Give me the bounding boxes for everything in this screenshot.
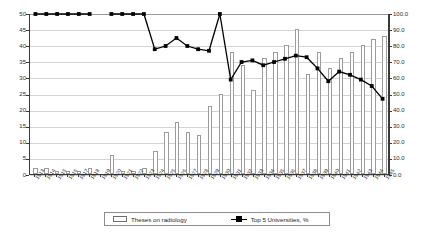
y-tickmark-right <box>389 78 392 79</box>
y-tickmark-right <box>389 30 392 31</box>
x-tickmark <box>144 175 145 177</box>
y-tick-label-right: 90.0 <box>393 27 427 34</box>
x-tickmark <box>274 175 275 177</box>
y-tick-label-left: 30 <box>2 75 26 82</box>
x-tickmark <box>56 175 57 177</box>
y-tick-label-right: 0.0 <box>393 172 427 179</box>
x-tickmark <box>220 175 221 177</box>
line-marker <box>326 79 330 83</box>
x-tickmark <box>100 175 101 177</box>
x-tickmark <box>67 175 68 177</box>
y-tickmark-right <box>389 14 392 15</box>
y-tick-label-left: 20 <box>2 107 26 114</box>
x-tickmark <box>154 175 155 177</box>
x-tickmark <box>45 175 46 177</box>
y-tickmark-left <box>26 175 29 176</box>
plot-area <box>29 14 389 175</box>
y-tickmark-right <box>389 159 392 160</box>
x-tickmark <box>253 175 254 177</box>
line-marker <box>175 36 179 40</box>
x-tickmark <box>34 175 35 177</box>
x-tickmark <box>340 175 341 177</box>
x-tickmark <box>384 175 385 177</box>
line-marker <box>229 78 233 82</box>
line-path <box>111 14 382 99</box>
y-tick-label-left: 40 <box>2 43 26 50</box>
line-marker <box>316 67 320 71</box>
y-tick-label-left: 5 <box>2 155 26 162</box>
radiology-theses-chart: 05101520253035404550 0.010.020.030.040.0… <box>0 0 429 236</box>
y-tick-label-right: 50.0 <box>393 91 427 98</box>
x-tickmark <box>133 175 134 177</box>
line-marker <box>153 47 157 51</box>
legend-label-line: Top 5 Universities, % <box>251 216 309 223</box>
line-marker <box>34 12 38 16</box>
y-tickmark-right <box>389 46 392 47</box>
line-marker <box>44 12 48 16</box>
x-tickmark <box>176 175 177 177</box>
line-marker <box>337 70 341 74</box>
line-marker <box>66 12 70 16</box>
line-marker <box>294 54 298 58</box>
line-marker <box>381 97 385 101</box>
line-marker <box>77 12 81 16</box>
x-tickmark <box>296 175 297 177</box>
line-marker <box>240 60 244 64</box>
legend: Theses on radiology Top 5 Universities, … <box>104 212 330 226</box>
x-tickmark <box>351 175 352 177</box>
y-tickmark-right <box>389 95 392 96</box>
x-tickmark <box>78 175 79 177</box>
y-tick-label-left: 50 <box>2 11 26 18</box>
x-tickmark <box>318 175 319 177</box>
y-tickmark-right <box>389 127 392 128</box>
legend-item-theses-on-radiology: Theses on radiology <box>113 216 187 223</box>
line-marker <box>305 55 309 59</box>
line-marker <box>218 12 222 16</box>
y-tick-label-left: 15 <box>2 123 26 130</box>
x-tickmark <box>285 175 286 177</box>
plot-inner <box>30 14 388 174</box>
line-marker <box>348 73 352 77</box>
line-marker <box>88 12 92 16</box>
line-marker-icon <box>231 216 247 223</box>
y-tick-label-right: 10.0 <box>393 155 427 162</box>
y-tick-label-left: 0 <box>2 172 26 179</box>
x-tickmark <box>329 175 330 177</box>
y-tickmark-right <box>389 143 392 144</box>
line-marker <box>55 12 59 16</box>
line-marker <box>142 12 146 16</box>
y-tick-label-right: 80.0 <box>393 43 427 50</box>
x-tickmark <box>122 175 123 177</box>
line-marker <box>164 44 168 48</box>
line-marker <box>261 63 265 67</box>
y-tick-label-right: 100.0 <box>393 11 427 18</box>
y-tick-label-right: 40.0 <box>393 107 427 114</box>
y-tick-label-left: 35 <box>2 59 26 66</box>
line-marker <box>185 44 189 48</box>
line-marker <box>207 49 211 53</box>
legend-label-bars: Theses on radiology <box>131 216 187 223</box>
x-tickmark <box>89 175 90 177</box>
line-marker <box>109 12 113 16</box>
line-marker <box>131 12 135 16</box>
x-tickmark <box>362 175 363 177</box>
x-tickmark <box>264 175 265 177</box>
x-tickmark <box>242 175 243 177</box>
x-tickmark <box>111 175 112 177</box>
line-marker <box>283 57 287 61</box>
x-tickmark <box>231 175 232 177</box>
y-tickmark-right <box>389 62 392 63</box>
legend-item-top-5-universities: Top 5 Universities, % <box>231 216 309 223</box>
x-tickmark <box>209 175 210 177</box>
line-marker <box>370 84 374 88</box>
bar-swatch-icon <box>113 216 127 222</box>
y-tick-label-right: 60.0 <box>393 75 427 82</box>
y-tickmark-right <box>389 111 392 112</box>
line-marker <box>272 60 276 64</box>
line-series-top-5-universities <box>30 14 388 174</box>
line-marker <box>359 78 363 82</box>
x-tickmark <box>307 175 308 177</box>
y-tick-label-left: 45 <box>2 27 26 34</box>
x-tickmark <box>198 175 199 177</box>
line-marker <box>196 47 200 51</box>
